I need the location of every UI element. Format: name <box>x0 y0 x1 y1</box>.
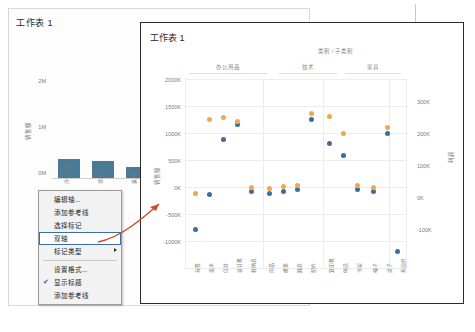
scatter-point <box>341 131 346 136</box>
scatter-point <box>235 119 240 124</box>
context-menu-item-show-title-label: 显示标题 <box>54 279 82 286</box>
right-axis-label: 利润 <box>447 151 455 163</box>
left-y-tick: 1000K <box>155 131 181 137</box>
scatter-point <box>371 185 376 190</box>
x-tick: 美术 <box>207 263 214 273</box>
chevron-right-icon <box>114 248 117 252</box>
background-x-tick: 技术 <box>96 174 103 184</box>
column-rule <box>279 73 337 74</box>
scatter-point <box>221 137 226 142</box>
scatter-point <box>309 111 314 116</box>
x-tick: 电话 <box>341 263 348 273</box>
foreground-header-label: 类别 / 子类别 <box>318 47 353 55</box>
column-header-office: 办公用品 <box>191 63 265 71</box>
scatter-point <box>193 191 198 196</box>
x-tick: 用品 <box>267 263 274 273</box>
scatter-point <box>385 125 390 130</box>
column-header-tech: 技术 <box>281 63 335 71</box>
left-y-tick: 1500K <box>155 104 181 110</box>
right-y-tick: 300K <box>417 99 443 105</box>
scatter-point <box>193 227 198 232</box>
scatter-point <box>295 183 300 188</box>
x-tick: 纸张 <box>281 263 288 273</box>
right-y-tick: 100K <box>417 163 443 169</box>
left-y-tick: 0K <box>155 185 181 191</box>
scatter-point <box>267 186 272 191</box>
scatter-point <box>385 131 390 136</box>
left-y-tick: 2000K <box>155 77 181 83</box>
column-header-furniture: 家具 <box>347 63 399 71</box>
check-icon: ✔ <box>43 278 49 286</box>
scatter-point <box>249 185 254 190</box>
x-tick: 信封 <box>221 263 228 273</box>
background-y-tick: 0M <box>28 170 46 176</box>
scatter-point <box>281 189 286 194</box>
scatter-plot-area <box>185 79 407 269</box>
right-y-tick: -100K <box>417 227 443 233</box>
scatter-point <box>207 117 212 122</box>
annotation-arrow-icon <box>95 198 165 248</box>
scatter-point <box>327 114 332 119</box>
foreground-worksheet-panel: 工作表 1 类别 / 子类别 办公用品 技术 家具 销售额 2000K 1500… <box>140 22 464 304</box>
scatter-point <box>341 153 346 158</box>
scatter-point <box>221 115 226 120</box>
background-x-tick: 家具 <box>130 174 137 184</box>
foreground-worksheet-title: 工作表 1 <box>150 31 185 44</box>
context-menu-item-show-title[interactable]: ✔ 显示标题 <box>39 276 121 289</box>
context-menu-item-add-reference-line-2[interactable]: 添加参考线 <box>39 289 121 302</box>
scatter-point <box>327 141 332 146</box>
x-tick: 桌子 <box>385 263 392 273</box>
scatter-point <box>309 117 314 122</box>
column-rule <box>189 73 267 74</box>
right-y-tick: 200K <box>417 131 443 137</box>
context-menu-separator <box>43 260 117 261</box>
scatter-point <box>395 249 400 254</box>
scatter-point <box>355 183 360 188</box>
background-x-tick: 办公用品 <box>62 164 69 184</box>
x-tick: 装订机 <box>235 258 242 273</box>
scatter-point <box>267 191 272 196</box>
x-tick: 器具 <box>295 263 302 273</box>
x-tick: 书架 <box>355 263 362 273</box>
left-y-tick: 500K <box>155 158 181 164</box>
x-tick: 收纳具 <box>249 258 256 273</box>
right-y-tick: 0K <box>417 195 443 201</box>
x-tick: 椅子 <box>371 263 378 273</box>
left-axis-label: 销售额 <box>153 167 161 185</box>
scatter-point <box>207 192 212 197</box>
x-tick: 标签 <box>193 263 200 273</box>
scatter-point <box>281 184 286 189</box>
column-rule <box>345 73 401 74</box>
background-worksheet-title: 工作表 1 <box>16 16 53 29</box>
x-tick: 复印机 <box>327 258 334 273</box>
context-menu-item-mark-type-label: 标记类型 <box>54 248 82 255</box>
background-y-tick: 1M <box>28 124 46 130</box>
background-y-tick: 2M <box>28 78 46 84</box>
x-tick: 系固件 <box>399 258 406 273</box>
x-tick: 配件 <box>309 263 316 273</box>
context-menu-item-format[interactable]: 设置格式... <box>39 263 121 276</box>
